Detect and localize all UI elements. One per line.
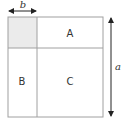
label-a: a [115, 61, 121, 72]
shaded-corner-square [8, 17, 37, 48]
region-label-B: B [19, 76, 26, 87]
region-label-A: A [67, 28, 74, 39]
label-b: b [20, 0, 26, 10]
area-model-diagram: b a A B C [0, 0, 127, 124]
region-label-C: C [67, 76, 74, 87]
